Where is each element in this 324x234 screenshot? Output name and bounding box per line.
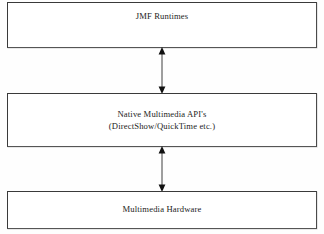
arrow-runtimes-to-api-svg [155, 47, 169, 94]
arrow-api-to-hardware-svg [155, 146, 169, 192]
layer-label-jmf-runtimes: JMF Runtimes [8, 11, 316, 23]
diagram-canvas: JMF Runtimes Native Multimedia API's (Di… [0, 0, 324, 234]
double-headed-vertical-arrow-icon [155, 146, 169, 192]
layer-label-native-api: Native Multimedia API's (DirectShow/Quic… [8, 109, 316, 132]
layer-label-multimedia-hardware: Multimedia Hardware [8, 204, 316, 216]
layer-box-jmf-runtimes: JMF Runtimes [7, 2, 317, 48]
double-headed-vertical-arrow-icon [155, 47, 169, 94]
layer-label-multimedia-hardware-line-1: Multimedia Hardware [8, 204, 316, 216]
layer-box-multimedia-hardware: Multimedia Hardware [7, 191, 317, 229]
layer-box-native-api: Native Multimedia API's (DirectShow/Quic… [7, 93, 317, 147]
layer-label-native-api-line-2: (DirectShow/QuickTime etc.) [8, 120, 316, 132]
layer-label-native-api-line-1: Native Multimedia API's [8, 109, 316, 121]
